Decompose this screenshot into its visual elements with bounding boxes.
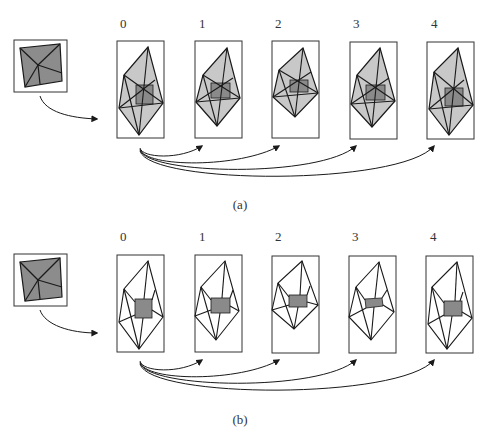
frame-label-b-4: 4: [430, 229, 437, 244]
propagation-arrows-a: [140, 146, 434, 176]
source-texture-patch-a: [14, 40, 67, 92]
propagation-arrows-b: [140, 360, 434, 390]
frame-a-1: [195, 41, 242, 138]
figure-canvas: 0 1 2 3 4: [0, 0, 489, 438]
frame-label-a-2: 2: [275, 16, 282, 31]
source-texture-patch-b: [14, 254, 67, 306]
caption-b: (b): [232, 412, 247, 427]
map-arrow-a: [40, 96, 97, 119]
frame-b-0: [117, 255, 164, 352]
frame-label-a-3: 3: [353, 16, 360, 31]
frame-a-4: [427, 42, 474, 139]
panel-a: 0 1 2 3 4: [14, 16, 474, 212]
caption-a: (a): [233, 197, 247, 212]
frame-b-4: [426, 256, 473, 353]
frame-a-0: [117, 41, 164, 138]
frame-label-b-2: 2: [275, 229, 282, 244]
frame-label-b-1: 1: [199, 229, 206, 244]
panel-b: 0 1 2 3 4: [14, 229, 473, 427]
frame-label-a-1: 1: [199, 16, 206, 31]
frame-label-a-4: 4: [431, 16, 438, 31]
frame-label-b-3: 3: [352, 229, 359, 244]
frame-b-3: [349, 256, 396, 353]
frame-label-b-0: 0: [120, 229, 127, 244]
map-arrow-b: [40, 310, 97, 333]
frame-a-3: [350, 42, 397, 139]
frame-b-2: [272, 256, 319, 353]
frame-b-1: [195, 255, 242, 352]
frame-label-a-0: 0: [120, 16, 127, 31]
frame-a-2: [272, 41, 319, 138]
